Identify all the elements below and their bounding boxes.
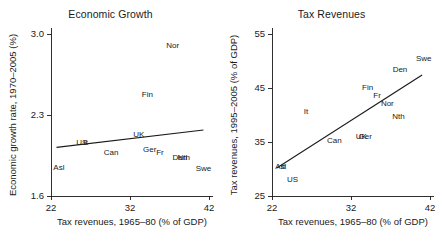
y-tick-label: 45 <box>254 82 265 93</box>
x-axis-title: Tax revenues, 1965–80 (% of GDP) <box>278 216 428 227</box>
data-point-label: Swe <box>196 164 212 173</box>
y-axis-title: Tax revenues, 1995–2005 (% of GDP) <box>228 35 239 196</box>
data-point-label: Nth <box>392 112 404 121</box>
panel-tax-revenues: Tax Revenues 25354555223242Tax revenues,… <box>221 0 442 243</box>
x-axis-title: Tax revenues, 1965–80 (% of GDP) <box>57 216 207 227</box>
data-point-label: Fr <box>156 148 164 157</box>
data-point-label: UK <box>133 130 145 139</box>
data-point-label: Den <box>393 65 408 74</box>
data-point-label: It <box>304 107 309 116</box>
y-tick-label: 35 <box>254 136 265 147</box>
x-tick-label: 42 <box>204 202 215 213</box>
data-point-label: Can <box>104 148 119 157</box>
data-point-label: Ger <box>359 132 373 141</box>
x-tick-label: 22 <box>46 202 57 213</box>
data-point-label: Fin <box>362 83 373 92</box>
x-tick-label: 32 <box>346 202 357 213</box>
data-point-label: US <box>287 175 298 184</box>
y-tick-label: 25 <box>254 190 265 201</box>
data-point-label: It <box>281 162 286 171</box>
data-point-label: Nth <box>177 153 189 162</box>
data-point-label: Swe <box>416 54 432 63</box>
figure-container: Economic Growth 1.62.33.0223242Tax reven… <box>0 0 442 243</box>
y-tick-label: 3.0 <box>31 28 44 39</box>
y-tick-label: 1.6 <box>31 190 44 201</box>
panel-economic-growth: Economic Growth 1.62.33.0223242Tax reven… <box>0 0 221 243</box>
regression-fit-line <box>277 75 422 168</box>
data-point-label: Nor <box>381 99 394 108</box>
plot-area-economic-growth: 1.62.33.0223242Tax revenues, 1965–80 (% … <box>0 0 221 243</box>
x-tick-label: 42 <box>425 202 436 213</box>
data-point-label: Ger <box>143 145 157 154</box>
plot-area-tax-revenues: 25354555223242Tax revenues, 1965–80 (% o… <box>221 0 442 243</box>
data-point-label: Can <box>327 136 342 145</box>
data-point-label: Fin <box>142 90 153 99</box>
y-tick-label: 55 <box>254 28 265 39</box>
x-tick-label: 32 <box>125 202 136 213</box>
x-tick-label: 22 <box>267 202 278 213</box>
data-point-label: Nor <box>166 41 179 50</box>
y-tick-label: 2.3 <box>31 109 44 120</box>
data-point-label: Asl <box>53 163 64 172</box>
data-point-label: It <box>84 138 89 147</box>
y-axis-title: Economic growth rate, 1970–2005 (%) <box>7 34 18 196</box>
